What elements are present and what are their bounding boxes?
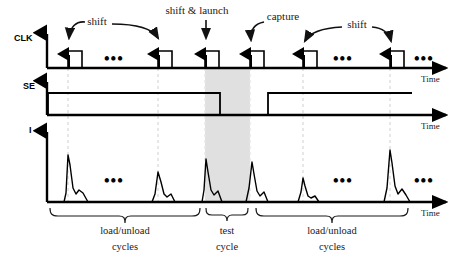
clk-pulse — [390, 51, 404, 68]
annotation-shift-left-label: shift — [87, 15, 107, 27]
bracket-labels: load/unload cycles test cycle load/unloa… — [100, 225, 357, 252]
bracket-label-test-cycle-line2: cycle — [216, 241, 238, 252]
annotation-shift-launch-label: shift & launch — [166, 4, 229, 16]
bracket-label-load-unload-left-line2: cycles — [112, 241, 138, 252]
clk-label: CLK — [14, 33, 33, 43]
clk-pulse — [205, 51, 219, 68]
annotation-capture-label: capture — [267, 10, 299, 22]
current-ellipsis-end: ••• — [414, 172, 434, 189]
shift-second-right-arrow — [372, 27, 391, 41]
timing-diagram-svg: CLK Time ••• ••• ••• SE Time I Time ••• … — [0, 0, 462, 260]
annotation-group: shift shift & launch capture shift — [69, 4, 391, 41]
clk-time-label: Time — [421, 74, 440, 84]
clk-pulse — [68, 51, 82, 68]
clk-pulse — [158, 51, 172, 68]
test-cycle-shading — [205, 68, 250, 202]
shift-left-arrow — [69, 22, 85, 38]
current-time-label: Time — [421, 208, 440, 218]
shift-right-arrow — [112, 24, 158, 38]
shift-second-left-arrow — [305, 27, 342, 41]
capture-arrow — [251, 22, 264, 40]
bracket-label-test-cycle-line1: test — [220, 225, 235, 236]
bracket-label-load-unload-right-line2: cycles — [319, 241, 345, 252]
current-ellipsis-right: ••• — [333, 172, 353, 189]
clk-pulse — [250, 51, 264, 68]
current-ellipsis-left: ••• — [104, 172, 124, 189]
current-label: I — [29, 125, 32, 135]
bracket-label-load-unload-right-line1: load/unload — [307, 225, 357, 236]
bracket-load-unload-right — [256, 208, 408, 223]
clk-ellipsis-right: ••• — [333, 50, 353, 67]
clk-pulse — [303, 51, 317, 68]
se-label: SE — [23, 81, 35, 91]
bracket-test-cycle — [206, 208, 248, 221]
timing-diagram-figure: CLK Time ••• ••• ••• SE Time I Time ••• … — [0, 0, 462, 260]
clk-ellipsis-end: ••• — [414, 50, 434, 67]
bracket-load-unload-left — [50, 208, 200, 223]
bracket-group — [50, 208, 408, 223]
clk-ellipsis-left: ••• — [104, 50, 124, 67]
se-time-label: Time — [421, 121, 440, 131]
bracket-label-load-unload-left-line1: load/unload — [100, 225, 150, 236]
annotation-shift-second-label: shift — [347, 18, 367, 30]
